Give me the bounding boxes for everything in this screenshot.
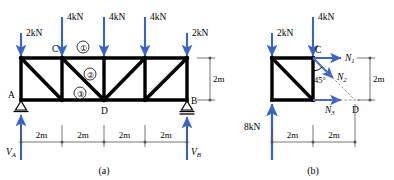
figure-canvas: 2kN 4kN 4kN 4kN 2kN [0, 0, 394, 180]
load-label-a2: 4kN [67, 12, 84, 22]
span-tick-2 [103, 141, 106, 144]
caption-a: (a) [98, 165, 109, 177]
height-dimension-label-b: 2m [373, 74, 385, 84]
caption-b: (b) [307, 165, 319, 177]
member-label-2: ② [87, 71, 94, 80]
span-tick-4 [186, 141, 189, 144]
joint-label-B: B [191, 96, 197, 106]
joint-label-D: D [101, 106, 108, 116]
span-label-a1: 2m [36, 130, 48, 140]
height-tick-top [209, 57, 212, 60]
joint-label-C-b: C [315, 45, 321, 55]
load-label-a1: 2kN [26, 28, 43, 38]
load-label-b1: 2kN [277, 28, 294, 38]
height-tick-bottom-b [369, 99, 372, 102]
height-dimension-label-a: 2m [213, 74, 225, 84]
load-label-b2: 4kN [318, 12, 335, 22]
span-label-b1: 2m [287, 130, 299, 140]
span-label-b2: 2m [328, 130, 340, 140]
height-tick-top-b [369, 57, 372, 60]
joint-label-D-b: D [352, 105, 359, 115]
member-label-1: ① [80, 44, 87, 53]
member-label-3: ③ [77, 90, 84, 99]
span-label-a2: 2m [77, 130, 89, 140]
truss-diagram-svg: 2kN 4kN 4kN 4kN 2kN [0, 0, 394, 180]
span-tick-0 [20, 141, 23, 144]
span-tick-b1 [312, 141, 315, 144]
reaction-label-8kN: 8kN [244, 122, 261, 132]
span-label-a3: 2m [119, 130, 131, 140]
span-tick-b0 [271, 141, 274, 144]
joint-label-A: A [8, 90, 15, 100]
joint-label-C: C [52, 44, 58, 54]
span-tick-1 [61, 141, 64, 144]
load-label-a4: 4kN [150, 12, 167, 22]
load-label-a3: 4kN [109, 12, 126, 22]
span-tick-b2 [354, 141, 357, 144]
load-label-a5: 2kN [192, 28, 209, 38]
span-label-a4: 2m [160, 130, 172, 140]
height-tick-bottom [209, 99, 212, 102]
angle-label-45: 45° [314, 75, 326, 85]
span-tick-3 [144, 141, 147, 144]
